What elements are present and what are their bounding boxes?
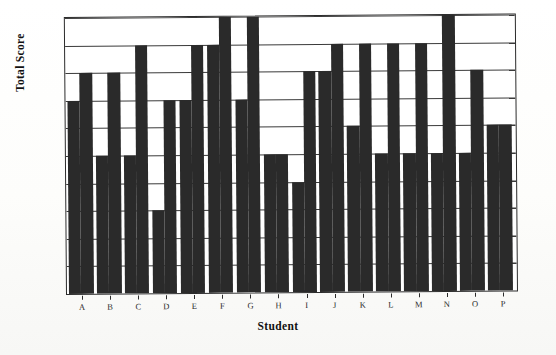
bar-group [318,16,348,292]
bar [152,210,165,293]
bar-group [207,17,237,293]
x-axis-tick-label: I [292,294,320,316]
x-axis-tick-label: M [405,293,433,315]
y-axis-tick-mark [64,45,65,46]
plot-area-wrapper: 012345678910 [64,13,518,295]
bar [387,43,401,291]
bar [96,156,109,294]
bar-group [346,16,376,292]
bar [499,125,513,291]
bar-group [486,14,516,290]
x-axis-tick-label: B [96,296,124,318]
bar [292,182,305,292]
bar [164,100,178,293]
bar [247,16,261,292]
bar [219,17,233,293]
y-axis-title: Total Score [14,0,26,92]
bar [331,43,345,291]
bar-group [458,15,488,291]
x-axis-tick-label: D [152,295,180,317]
bar [375,153,388,291]
x-axis-tick-label: L [377,293,405,315]
bar [415,43,429,291]
bar [191,45,205,293]
bar [124,155,137,293]
bar [263,154,276,292]
x-axis-tick-label: O [461,293,489,315]
bar-group [374,15,404,291]
bar-group [123,17,153,293]
bar [80,73,94,294]
bar [442,15,456,291]
y-axis-tick-mark [64,155,66,156]
bar-chart-figure: Total Score 012345678910 ABCDEFGHIJKLMNO… [0,0,556,355]
bar [471,70,485,291]
bar-group [151,17,181,293]
x-axis-tick-label: K [349,294,377,316]
bar-group [402,15,432,291]
x-axis-tick-label: C [124,295,152,317]
x-axis-tick-label: N [433,293,461,315]
y-axis-tick-mark [64,17,65,18]
bar [459,153,472,291]
bar [107,73,121,294]
bar-group [67,18,97,294]
x-axis-tick-label: F [208,295,236,317]
bar-group [95,18,125,294]
x-axis-title: Student [0,320,556,332]
bar [403,153,416,291]
bar-group [234,16,264,292]
x-axis-tick-label: E [180,295,208,317]
x-axis-tick-label: J [321,294,349,316]
y-axis-tick-mark [64,183,66,184]
bar [359,43,373,291]
y-axis-tick-mark [64,127,66,128]
bar [431,153,444,291]
bar-series-container [65,14,517,294]
plot-area: 012345678910 [64,13,518,295]
y-axis-tick-mark [64,100,66,101]
y-axis-tick-mark [64,72,65,73]
x-axis-tick-label: P [489,292,517,314]
x-axis-tick-label: H [264,294,292,316]
bar-group [179,17,209,293]
bar [135,45,149,293]
bar-group [430,15,460,291]
bar-group [290,16,320,292]
bar-group [262,16,292,292]
x-axis-tick-label: G [236,294,264,316]
bar [303,71,317,292]
bar [276,154,289,292]
x-axis-tick-labels: ABCDEFGHIJKLMNOP [66,292,518,318]
x-axis-tick-label: A [68,296,96,318]
